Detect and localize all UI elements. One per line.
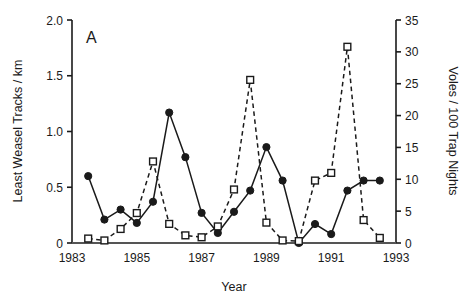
right-tick-label: 0 xyxy=(405,237,412,251)
data-point-marker xyxy=(85,235,92,242)
x-tick-label: 1993 xyxy=(383,251,410,265)
x-axis-tick-labels: 198319851987198919911993 xyxy=(59,251,410,265)
data-point-marker xyxy=(117,226,124,233)
left-tick-label: 1.0 xyxy=(46,125,63,139)
x-tick-label: 1989 xyxy=(253,251,280,265)
data-series-layer xyxy=(85,43,384,246)
data-point-marker xyxy=(279,237,286,244)
data-point-marker xyxy=(295,238,302,245)
figure-panel-a: 00.51.01.52.0 05101520253035 19831985198… xyxy=(0,0,466,300)
chart-canvas: 00.51.01.52.0 05101520253035 19831985198… xyxy=(0,0,466,300)
data-point-marker xyxy=(133,210,140,217)
x-tick-label: 1987 xyxy=(188,251,215,265)
data-point-marker xyxy=(230,208,237,215)
right-tick-label: 15 xyxy=(405,141,419,155)
right-axis-tick-labels: 05101520253035 xyxy=(405,14,419,251)
data-point-marker xyxy=(360,217,367,224)
data-point-marker xyxy=(344,43,351,50)
x-tick-label: 1991 xyxy=(318,251,345,265)
data-point-marker xyxy=(198,234,205,241)
right-tick-label: 35 xyxy=(405,14,419,28)
data-point-marker xyxy=(198,209,205,216)
data-point-marker xyxy=(312,177,319,184)
left-axis-tick-labels: 00.51.01.52.0 xyxy=(46,14,63,251)
left-tick-label: 2.0 xyxy=(46,14,63,28)
x-tick-label: 1985 xyxy=(123,251,150,265)
data-point-marker xyxy=(85,173,92,180)
series-1 xyxy=(85,109,384,247)
data-point-marker xyxy=(263,219,270,226)
left-tick-label: 0 xyxy=(56,237,63,251)
data-point-marker xyxy=(376,177,383,184)
data-point-marker xyxy=(101,237,108,244)
data-point-marker xyxy=(166,220,173,227)
data-point-marker xyxy=(247,76,254,83)
data-point-marker xyxy=(263,144,270,151)
data-point-marker xyxy=(311,220,318,227)
data-point-marker xyxy=(360,177,367,184)
panel-label: A xyxy=(86,29,97,46)
left-tick-label: 1.5 xyxy=(46,69,63,83)
data-point-marker xyxy=(182,232,189,239)
data-point-marker xyxy=(166,109,173,116)
y-axis-title: Least Weasel Tracks / km xyxy=(11,60,25,203)
right-tick-label: 30 xyxy=(405,45,419,59)
right-tick-label: 10 xyxy=(405,173,419,187)
data-point-marker xyxy=(328,170,335,177)
data-point-marker xyxy=(344,187,351,194)
data-point-marker xyxy=(376,235,383,242)
left-tick-label: 0.5 xyxy=(46,181,63,195)
x-tick-label: 1983 xyxy=(59,251,86,265)
data-point-marker xyxy=(231,186,238,193)
data-point-marker xyxy=(133,219,140,226)
data-point-marker xyxy=(117,206,124,213)
data-point-marker xyxy=(214,223,221,230)
data-point-marker xyxy=(101,216,108,223)
data-point-marker xyxy=(247,187,254,194)
data-point-marker xyxy=(149,198,156,205)
right-tick-label: 5 xyxy=(405,205,412,219)
y2-axis-title: Voles / 100 Trap Nights xyxy=(446,66,460,195)
x-axis-title: Year xyxy=(221,280,246,294)
data-point-marker xyxy=(182,154,189,161)
right-tick-label: 20 xyxy=(405,109,419,123)
data-point-marker xyxy=(150,158,157,165)
data-point-marker xyxy=(279,177,286,184)
data-point-marker xyxy=(328,230,335,237)
right-tick-label: 25 xyxy=(405,77,419,91)
